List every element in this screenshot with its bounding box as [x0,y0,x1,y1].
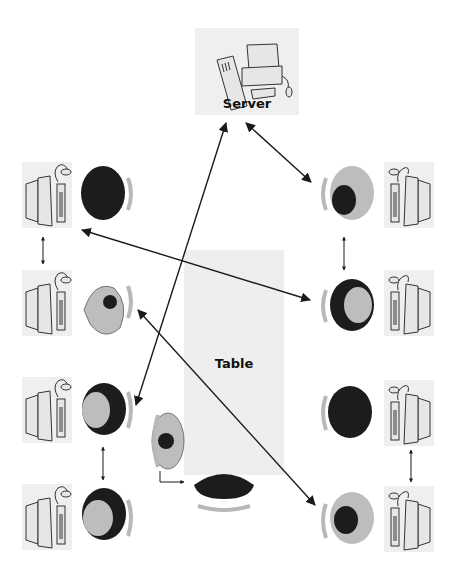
computer-icon [384,380,434,446]
computer-icon [22,162,72,228]
arrow-t1-t2 [160,471,184,482]
arrow-l1-r2 [82,230,310,300]
computer-icon [22,377,72,443]
arrow-server-l3 [136,123,226,405]
computer-icon [22,484,72,550]
computer-icon [384,162,434,228]
workstations-layer [0,0,458,579]
computer-icon [22,270,72,336]
computer-icon [384,270,434,336]
arrow-server-r1 [246,123,311,182]
person-icon [81,166,374,544]
computer-icon [384,486,434,552]
